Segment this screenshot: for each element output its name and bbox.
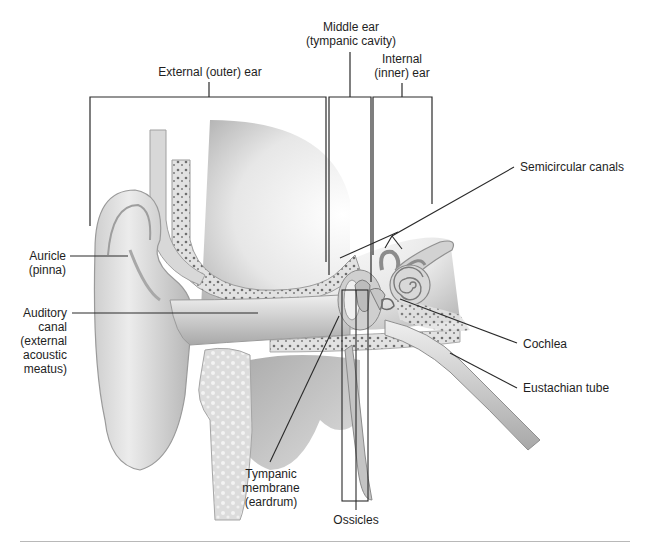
label-external-ear: External (outer) ear bbox=[148, 65, 272, 79]
label-auricle-line2: (pinna) bbox=[10, 263, 66, 277]
label-auricle: Auricle (pinna) bbox=[10, 249, 66, 277]
label-auditory-canal-line3: (external bbox=[6, 334, 67, 348]
bracket-internal-ear bbox=[373, 83, 432, 255]
label-middle-ear: Middle ear (tympanic cavity) bbox=[296, 20, 406, 48]
label-ossicles: Ossicles bbox=[326, 513, 386, 527]
label-tympanic-membrane: Tympanic membrane (eardrum) bbox=[236, 467, 306, 509]
label-auditory-canal-line2: canal bbox=[6, 320, 67, 334]
label-semicircular-canals: Semicircular canals bbox=[520, 160, 624, 174]
leader-semicircular-canals bbox=[385, 167, 514, 248]
label-tympanic-membrane-line2: membrane bbox=[236, 481, 306, 495]
label-middle-ear-line1: Middle ear bbox=[296, 20, 406, 34]
label-auditory-canal-line4: acoustic bbox=[6, 348, 67, 362]
label-eustachian-tube: Eustachian tube bbox=[523, 381, 609, 395]
jaw-tissue bbox=[235, 355, 360, 470]
label-auditory-canal-line5: meatus) bbox=[6, 362, 67, 376]
label-tympanic-membrane-line1: Tympanic bbox=[236, 467, 306, 481]
label-middle-ear-line2: (tympanic cavity) bbox=[296, 34, 406, 48]
label-auditory-canal: Auditory canal (external acoustic meatus… bbox=[6, 306, 67, 376]
eustachian-tube-shape bbox=[385, 320, 540, 450]
label-internal-ear: Internal (inner) ear bbox=[370, 52, 434, 80]
label-internal-ear-line1: Internal bbox=[370, 52, 434, 66]
bottom-divider bbox=[20, 541, 630, 542]
label-auricle-line1: Auricle bbox=[10, 249, 66, 263]
label-auditory-canal-line1: Auditory bbox=[6, 306, 67, 320]
label-internal-ear-line2: (inner) ear bbox=[370, 66, 434, 80]
label-tympanic-membrane-line3: (eardrum) bbox=[236, 495, 306, 509]
label-cochlea: Cochlea bbox=[523, 337, 567, 351]
ear-anatomy-illustration bbox=[0, 0, 648, 545]
